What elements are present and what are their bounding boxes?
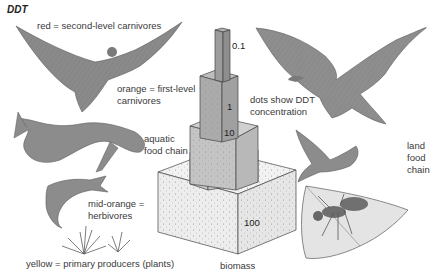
large-fish-illustration xyxy=(14,112,145,172)
value-1: 1 xyxy=(227,101,232,112)
label-aquatic-2: food chain xyxy=(144,145,188,156)
label-yellow-primary-producers: yellow = primary producers (plants) xyxy=(26,258,174,269)
label-biomass: biomass xyxy=(220,260,255,271)
label-dots-1: dots show DDT xyxy=(250,94,315,105)
value-100: 100 xyxy=(244,217,260,228)
value-10: 10 xyxy=(224,127,235,138)
label-land-2: food xyxy=(407,152,426,163)
label-orange-first-level-2: carnivores xyxy=(117,95,161,106)
label-mid-orange-1: mid-orange = xyxy=(88,198,144,209)
label-mid-orange-2: herbivores xyxy=(88,210,132,221)
label-aquatic-1: aquatic xyxy=(144,133,175,144)
label-dots-2: concentration xyxy=(250,106,307,117)
label-land-3: chain xyxy=(407,164,430,175)
label-orange-first-level-1: orange = first-level xyxy=(117,83,195,94)
aquatic-plants-illustration xyxy=(62,226,130,254)
label-red-second-level-carnivores: red = second-level carnivores xyxy=(37,20,161,31)
label-land-1: land xyxy=(407,140,425,151)
diagram-artwork: 0.1 10 100 1 xyxy=(0,0,439,278)
pyramid-level-0-1 xyxy=(215,28,230,82)
songbird-illustration xyxy=(296,130,358,182)
value-0-1: 0.1 xyxy=(232,40,245,51)
ant-on-leaf-illustration xyxy=(302,186,409,259)
